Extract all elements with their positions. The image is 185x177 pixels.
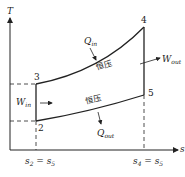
w-in-label: Win xyxy=(16,97,31,108)
point-3-label: 3 xyxy=(34,72,40,82)
w-out-label: Wout xyxy=(162,54,182,65)
x-tick-right: s4 = s5 xyxy=(133,156,163,167)
point-5-label: 5 xyxy=(148,88,154,98)
q-in-label: Qin xyxy=(84,36,97,47)
q-in-arrow-icon xyxy=(90,48,96,60)
point-4-label: 4 xyxy=(141,15,147,25)
guide-lines xyxy=(10,84,144,150)
point-2-label: 2 xyxy=(38,123,44,133)
upper-process-label: 恒压 xyxy=(95,57,113,71)
y-axis-label: T xyxy=(7,6,14,16)
x-tick-left: s2 = s5 xyxy=(25,156,55,167)
q-out-label: Qout xyxy=(97,128,115,139)
ts-diagram: T s 3 2 4 5 Qin 恒压 Wout Win 恒压 Qout s2 =… xyxy=(0,0,185,177)
q-out-arrow-icon xyxy=(98,112,101,124)
w-out-arrow-icon xyxy=(140,58,160,64)
x-axis-label: s xyxy=(180,144,185,154)
lower-process-label: 恒压 xyxy=(84,93,102,106)
